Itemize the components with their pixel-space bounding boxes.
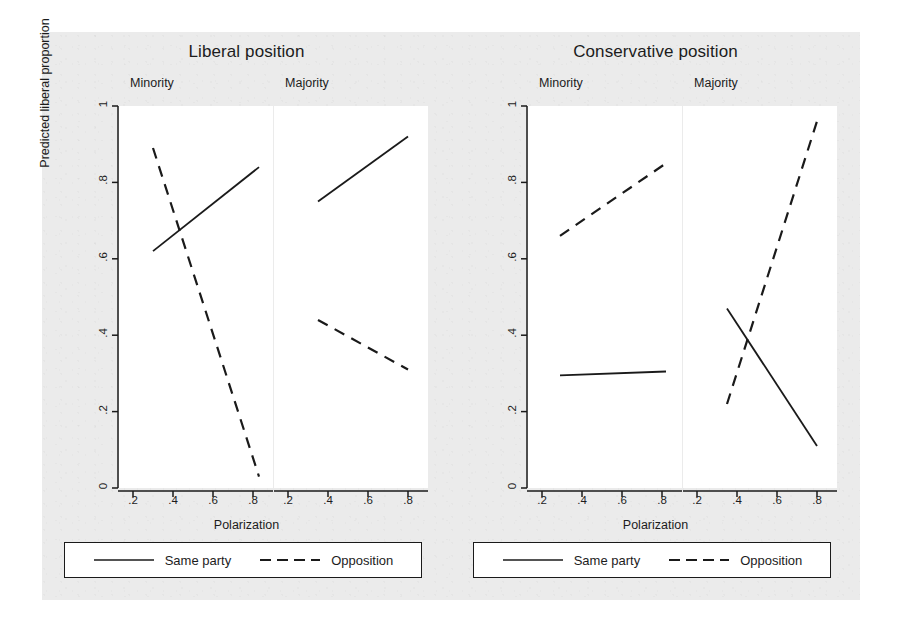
x-axis-tick-label: .4 xyxy=(162,494,184,506)
legend-right: Same party Opposition xyxy=(473,542,831,578)
y-axis-tick-label: .6 xyxy=(97,246,109,268)
panel-title-minority-liberal: Minority xyxy=(75,76,229,90)
y-axis-tick-label: 1 xyxy=(506,93,518,115)
x-axis-tick-label: .8 xyxy=(242,494,264,506)
legend-item-opposition-left[interactable]: Opposition xyxy=(245,553,407,568)
solid-line-icon xyxy=(93,554,155,566)
x-axis-tick-label: .6 xyxy=(766,494,788,506)
panel-title-minority-conservative: Minority xyxy=(484,76,638,90)
y-axis-tick-label: .6 xyxy=(506,246,518,268)
plot-area-liberal-minority xyxy=(119,106,273,488)
x-axis-tick-label: .4 xyxy=(571,494,593,506)
y-axis-tick-label: .2 xyxy=(506,399,518,421)
y-axis-label-left: Predicted liberal proportion xyxy=(38,0,52,218)
legend-label-same-party-left: Same party xyxy=(165,553,231,568)
x-axis-tick-label: .6 xyxy=(357,494,379,506)
x-axis-tick-label: .8 xyxy=(397,494,419,506)
x-axis-tick-label: .6 xyxy=(611,494,633,506)
x-axis-tick-label: .2 xyxy=(277,494,299,506)
x-axis-tick-label: .4 xyxy=(317,494,339,506)
legend-left: Same party Opposition xyxy=(64,542,422,578)
x-axis-tick-label: .8 xyxy=(651,494,673,506)
plot-area-liberal-majority xyxy=(274,106,428,488)
y-axis-tick-label: 0 xyxy=(97,475,109,497)
x-axis-tick-label: .2 xyxy=(531,494,553,506)
x-axis-label-left: Polarization xyxy=(42,518,451,532)
y-axis-tick-label: .4 xyxy=(97,322,109,344)
y-axis-tick-label: .8 xyxy=(506,169,518,191)
legend-item-opposition-right[interactable]: Opposition xyxy=(654,553,816,568)
x-axis-tick-label: .4 xyxy=(726,494,748,506)
panel-group-liberal: Liberal position Minority Majority Predi… xyxy=(42,32,451,600)
x-axis-tick-label: .8 xyxy=(806,494,828,506)
dashed-line-icon xyxy=(668,554,730,566)
x-axis-tick-label: .2 xyxy=(686,494,708,506)
x-axis-tick-label: .2 xyxy=(122,494,144,506)
y-axis-tick-label: .8 xyxy=(97,169,109,191)
y-axis-tick-label: .2 xyxy=(97,399,109,421)
figure-canvas: Liberal position Minority Majority Predi… xyxy=(42,32,860,600)
y-axis-tick-label: .4 xyxy=(506,322,518,344)
legend-item-same-party-right[interactable]: Same party xyxy=(488,553,654,568)
y-axis-tick-label: 0 xyxy=(506,475,518,497)
panel-title-majority-conservative: Majority xyxy=(639,76,793,90)
plot-area-conservative-minority xyxy=(528,106,682,488)
plot-area-conservative-majority xyxy=(683,106,837,488)
legend-label-opposition-right: Opposition xyxy=(740,553,802,568)
legend-item-same-party-left[interactable]: Same party xyxy=(79,553,245,568)
panel-title-majority-liberal: Majority xyxy=(230,76,384,90)
supertitle-liberal: Liberal position xyxy=(42,42,451,62)
panel-group-conservative: Conservative position Minority Majority … xyxy=(451,32,860,600)
solid-line-icon xyxy=(502,554,564,566)
dashed-line-icon xyxy=(259,554,321,566)
legend-label-same-party-right: Same party xyxy=(574,553,640,568)
x-axis-tick-label: .6 xyxy=(202,494,224,506)
x-axis-label-right: Polarization xyxy=(451,518,860,532)
supertitle-conservative: Conservative position xyxy=(451,42,860,62)
y-axis-tick-label: 1 xyxy=(97,93,109,115)
legend-label-opposition-left: Opposition xyxy=(331,553,393,568)
